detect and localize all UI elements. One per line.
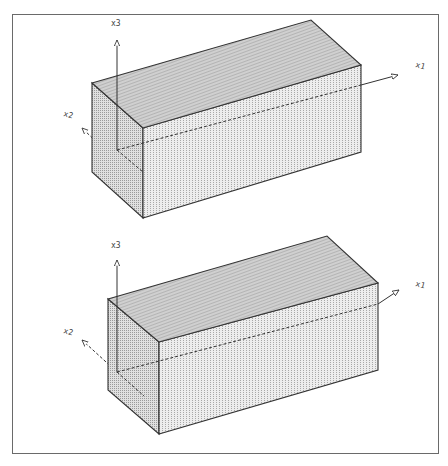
x1-label-bottom: x1 — [414, 279, 426, 290]
x1-axis-outer-bottom — [378, 290, 399, 304]
panel-top: x3 x2 x1 — [62, 19, 426, 218]
x1-label-top: x1 — [414, 60, 426, 71]
diagram-canvas: x3 x2 x1 x3 x2 x1 — [0, 0, 448, 466]
x2-label-bottom: x2 — [62, 326, 74, 337]
x3-label-bottom: x3 — [111, 241, 121, 250]
panel-bottom: x3 x2 x1 — [62, 236, 426, 434]
x2-label-top: x2 — [62, 109, 74, 120]
x1-axis-outer-top — [361, 75, 398, 85]
x3-label-top: x3 — [111, 19, 121, 28]
